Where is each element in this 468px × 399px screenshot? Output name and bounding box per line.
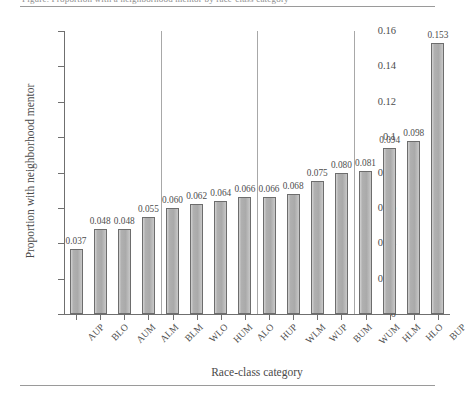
x-tick-label: AUM <box>135 322 158 345</box>
x-tick-label: WLM <box>304 322 328 346</box>
x-tick-label: BLO <box>110 322 131 343</box>
y-axis-line <box>64 31 65 315</box>
y-tick-mark <box>58 137 64 138</box>
bar <box>263 197 276 314</box>
bar <box>407 141 420 314</box>
bar-value-label: 0.068 <box>277 182 309 191</box>
x-tick-mark <box>173 315 174 320</box>
x-tick-mark <box>317 315 318 320</box>
bar-value-label: 0.075 <box>301 169 333 178</box>
y-tick-mark <box>58 66 64 67</box>
x-tick-label: BLM <box>183 322 205 344</box>
x-tick-label: BUM <box>352 322 375 345</box>
caption-remnant: Figure. Proportion with a neighborhood m… <box>0 0 455 5</box>
rule-top <box>20 6 435 7</box>
bar <box>118 229 131 314</box>
x-tick-label: AUP <box>86 322 107 343</box>
bar <box>166 208 179 314</box>
x-tick-mark <box>438 315 439 320</box>
x-tick-mark <box>76 315 77 320</box>
x-tick-label: HLO <box>424 322 445 343</box>
bar-value-label: 0.037 <box>60 237 92 246</box>
x-tick-mark <box>245 315 246 320</box>
group-separator-line <box>161 31 162 314</box>
x-tick-mark <box>414 315 415 320</box>
x-tick-mark <box>100 315 101 320</box>
bar <box>94 229 107 314</box>
bar-value-label: 0.081 <box>350 159 382 168</box>
bar <box>335 173 348 315</box>
x-tick-label: WUM <box>377 322 401 346</box>
bar-value-label: 0.055 <box>132 205 164 214</box>
bar <box>190 204 203 314</box>
bar <box>214 201 227 314</box>
rule-bottom <box>20 385 435 386</box>
x-tick-label: WLO <box>207 322 230 345</box>
x-tick-label: ALO <box>255 322 276 343</box>
x-tick-mark <box>269 315 270 320</box>
group-separator-line <box>354 31 355 314</box>
bar <box>142 217 155 314</box>
bar <box>287 194 300 314</box>
bar <box>311 181 324 314</box>
x-axis-title: Race-class category <box>64 366 450 378</box>
bar <box>70 249 83 314</box>
x-tick-label: WUP <box>328 322 350 344</box>
x-tick-mark <box>124 315 125 320</box>
group-separator-line <box>257 31 258 314</box>
x-tick-label: HUM <box>231 322 254 345</box>
y-tick-mark <box>58 173 64 174</box>
x-tick-mark <box>221 315 222 320</box>
bar-value-label: 0.153 <box>422 31 454 40</box>
x-tick-label: HLM <box>400 322 422 344</box>
bar <box>238 197 251 314</box>
x-tick-mark <box>366 315 367 320</box>
x-tick-label: HUP <box>279 322 300 343</box>
x-tick-mark <box>390 315 391 320</box>
x-tick-mark <box>341 315 342 320</box>
x-tick-label: ALM <box>159 322 181 344</box>
x-tick-mark <box>197 315 198 320</box>
y-tick-mark <box>58 102 64 103</box>
y-axis-title: Proportion with neighborhood mentor <box>24 51 36 291</box>
y-tick-mark <box>58 208 64 209</box>
bar <box>383 148 396 314</box>
y-tick-mark <box>58 279 64 280</box>
bar <box>431 43 444 314</box>
x-tick-mark <box>148 315 149 320</box>
y-tick-mark <box>58 314 64 315</box>
bar-value-label: 0.098 <box>398 129 430 138</box>
x-tick-label: BUP <box>447 322 467 342</box>
bar <box>359 171 372 314</box>
y-tick-mark <box>58 31 64 32</box>
bar-value-label: 0.048 <box>108 217 140 226</box>
x-tick-mark <box>293 315 294 320</box>
